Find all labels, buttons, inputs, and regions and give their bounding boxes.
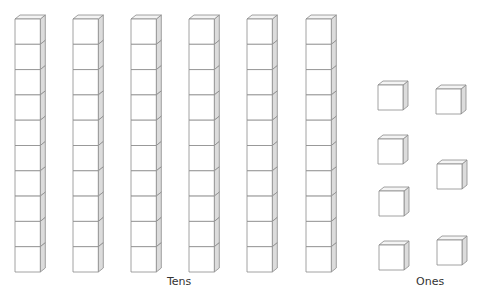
- cube-front: [378, 139, 403, 164]
- cube-front: [436, 89, 461, 114]
- cube-front: [73, 44, 98, 69]
- rod-cube: [189, 91, 219, 120]
- cube-front: [131, 95, 156, 120]
- cube-front: [189, 19, 214, 44]
- cube-side: [98, 142, 103, 171]
- cube-side: [331, 15, 336, 44]
- cube-front: [73, 247, 98, 272]
- cube-side: [214, 66, 219, 95]
- rod-cube: [73, 40, 103, 69]
- rod-cube: [247, 142, 277, 171]
- cube-top: [379, 187, 409, 191]
- cube-front: [306, 95, 331, 120]
- rod-cube: [306, 116, 336, 145]
- cube-front: [15, 120, 40, 145]
- cube-side: [403, 81, 408, 110]
- cube-side: [214, 15, 219, 44]
- cube-side: [272, 116, 277, 145]
- unit-cube: [378, 81, 408, 110]
- rod-cube: [131, 116, 161, 145]
- cube-front: [73, 70, 98, 95]
- cube-side: [214, 217, 219, 246]
- rod-cube: [73, 192, 103, 221]
- tens-rod: [131, 15, 161, 272]
- cube-side: [272, 167, 277, 196]
- cube-front: [306, 146, 331, 171]
- tens-rod: [15, 15, 45, 272]
- cube-side: [331, 116, 336, 145]
- rod-cube: [189, 217, 219, 246]
- cube-front: [247, 146, 272, 171]
- cube-top: [379, 241, 409, 245]
- rod-cube: [247, 217, 277, 246]
- unit-cube: [437, 236, 467, 265]
- cube-side: [461, 85, 466, 114]
- cube-front: [131, 120, 156, 145]
- cube-side: [156, 217, 161, 246]
- cube-top: [436, 85, 466, 89]
- cube-side: [40, 40, 45, 69]
- cube-side: [214, 116, 219, 145]
- rod-cube: [306, 91, 336, 120]
- cube-front: [306, 247, 331, 272]
- unit-cube: [379, 241, 409, 270]
- rod-cube: [306, 40, 336, 69]
- cube-front: [247, 44, 272, 69]
- cube-front: [15, 146, 40, 171]
- rod-cube: [131, 142, 161, 171]
- rod-cube: [131, 243, 161, 272]
- cube-side: [462, 160, 467, 189]
- rod-cube: [247, 66, 277, 95]
- cube-front: [15, 95, 40, 120]
- tens-rods: [15, 15, 336, 272]
- unit-cube: [436, 85, 466, 114]
- cube-side: [272, 142, 277, 171]
- cube-front: [247, 70, 272, 95]
- rod-cube: [189, 192, 219, 221]
- rod-cube: [306, 243, 336, 272]
- cube-front: [247, 196, 272, 221]
- cube-side: [272, 91, 277, 120]
- cube-front: [247, 221, 272, 246]
- cube-side: [98, 217, 103, 246]
- cube-side: [40, 217, 45, 246]
- cube-front: [189, 196, 214, 221]
- tens-rod: [306, 15, 336, 272]
- rod-cube: [73, 243, 103, 272]
- cube-side: [214, 91, 219, 120]
- ones-cubes: [378, 81, 467, 270]
- cube-top: [247, 15, 277, 19]
- rod-cube: [73, 15, 103, 44]
- rod-cube: [131, 15, 161, 44]
- rod-cube: [73, 91, 103, 120]
- rod-cube: [15, 142, 45, 171]
- rod-cube: [189, 15, 219, 44]
- rod-cube: [73, 167, 103, 196]
- tens-label: Tens: [167, 275, 191, 288]
- rod-cube: [131, 192, 161, 221]
- rod-cube: [189, 40, 219, 69]
- cube-side: [156, 167, 161, 196]
- rod-cube: [247, 40, 277, 69]
- cube-top: [306, 15, 336, 19]
- ones-label: Ones: [416, 275, 444, 288]
- tens-rod: [247, 15, 277, 272]
- unit-cube: [378, 135, 408, 164]
- tens-rod: [73, 15, 103, 272]
- cube-side: [40, 15, 45, 44]
- cube-side: [40, 243, 45, 272]
- rod-cube: [247, 15, 277, 44]
- cube-front: [189, 120, 214, 145]
- cube-top: [437, 160, 467, 164]
- cube-front: [247, 171, 272, 196]
- cube-front: [189, 70, 214, 95]
- rod-cube: [131, 91, 161, 120]
- cube-front: [131, 70, 156, 95]
- cube-front: [131, 19, 156, 44]
- cube-side: [98, 167, 103, 196]
- rod-cube: [73, 217, 103, 246]
- cube-side: [98, 66, 103, 95]
- cube-side: [40, 167, 45, 196]
- cube-front: [131, 221, 156, 246]
- rod-cube: [306, 217, 336, 246]
